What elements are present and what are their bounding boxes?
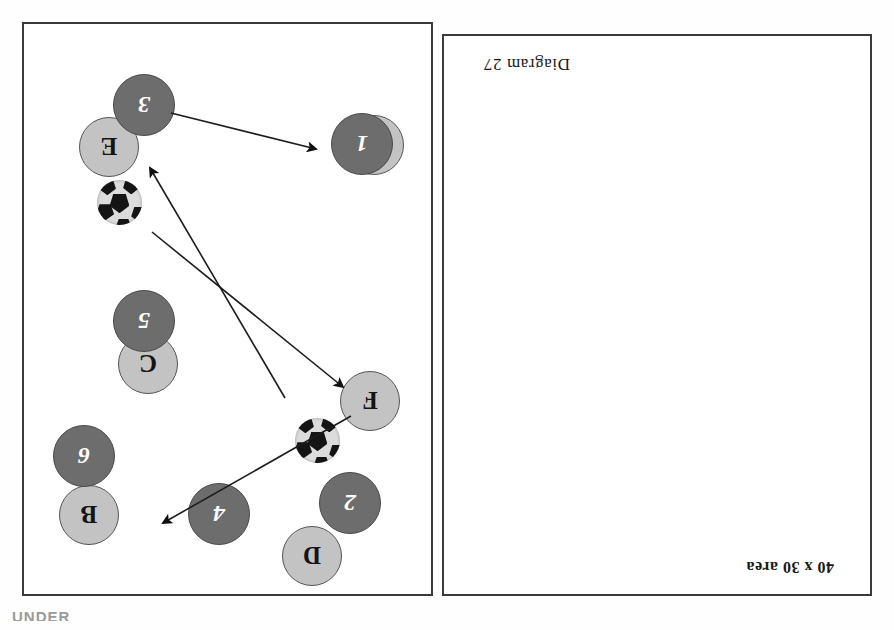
player-token-2[interactable]: 2	[319, 472, 381, 534]
area-caption: 40 x 30 area	[746, 558, 834, 576]
ball-patch	[321, 418, 337, 432]
soccer-ball-numbered-panel	[295, 418, 340, 463]
player-label: F	[362, 389, 377, 414]
diagram-caption: Diagram 27	[483, 54, 570, 74]
player-label: 6	[78, 444, 90, 468]
player-token-D[interactable]: D	[282, 526, 342, 586]
player-label: C	[139, 352, 157, 377]
lettered-players-panel: 40 x 30 area Diagram 27	[442, 34, 872, 596]
ball-patch	[297, 418, 314, 433]
ball-patch	[123, 180, 139, 194]
cut-off-edge-text: UNDER	[12, 612, 70, 621]
player-label: 1	[356, 132, 368, 156]
soccer-ball-lettered-panel	[97, 180, 142, 225]
player-label: 2	[344, 491, 356, 515]
player-label: E	[101, 135, 118, 160]
player-label: B	[81, 503, 98, 528]
player-token-1[interactable]: 1	[331, 113, 393, 175]
player-label: D	[303, 544, 321, 569]
rotated-page-content: 40 x 30 area Diagram 27 A B C D E F 1 2	[0, 0, 894, 630]
player-label: 5	[138, 309, 150, 333]
player-label: 4	[213, 502, 225, 526]
ball-patch	[131, 207, 142, 222]
ball-patch	[329, 445, 340, 460]
player-token-F[interactable]: F	[340, 371, 400, 431]
player-token-5[interactable]: 5	[113, 290, 175, 352]
ball-patch	[116, 219, 131, 225]
ball-patch	[314, 457, 329, 463]
player-token-B[interactable]: B	[59, 485, 119, 545]
player-token-6[interactable]: 6	[53, 425, 115, 487]
player-label: 3	[138, 93, 150, 117]
player-token-3[interactable]: 3	[113, 74, 175, 136]
player-token-4[interactable]: 4	[188, 483, 250, 545]
scanned-page: 40 x 30 area Diagram 27 A B C D E F 1 2	[0, 0, 894, 630]
ball-patch	[99, 180, 116, 195]
